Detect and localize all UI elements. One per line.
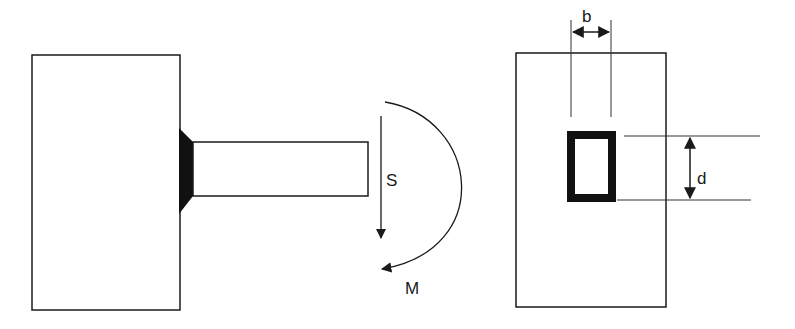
weld (179, 128, 193, 214)
hollow-section (571, 135, 612, 198)
depth-label: d (697, 169, 706, 188)
diagram-canvas: S M b d (0, 0, 795, 329)
support-block (32, 55, 180, 310)
shear-label: S (386, 171, 397, 190)
left-view: S M (32, 55, 462, 310)
cantilever-beam (193, 142, 368, 196)
right-view: b d (516, 7, 760, 307)
width-label: b (582, 7, 591, 26)
moment-label: M (405, 279, 419, 298)
